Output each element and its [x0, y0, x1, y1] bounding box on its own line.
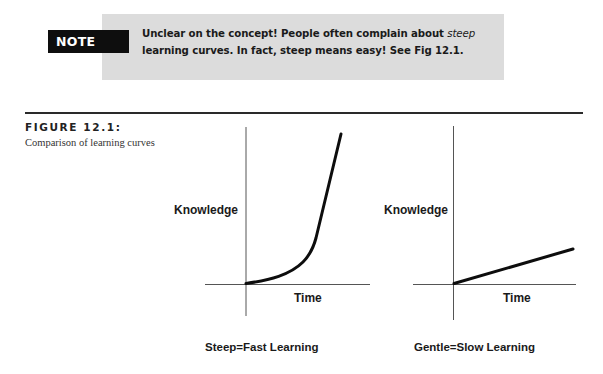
gentle-chart-title: Gentle=Slow Learning	[414, 341, 535, 353]
gentle-chart-y-label: Knowledge	[384, 203, 448, 217]
steep-curve	[246, 134, 341, 284]
steep-chart-title: Steep=Fast Learning	[205, 341, 318, 353]
gentle-curve	[454, 249, 573, 284]
steep-chart-y-label: Knowledge	[174, 203, 238, 217]
learning-curve-charts	[0, 0, 603, 374]
steep-chart-x-label: Time	[294, 291, 322, 305]
gentle-chart-x-label: Time	[503, 291, 531, 305]
